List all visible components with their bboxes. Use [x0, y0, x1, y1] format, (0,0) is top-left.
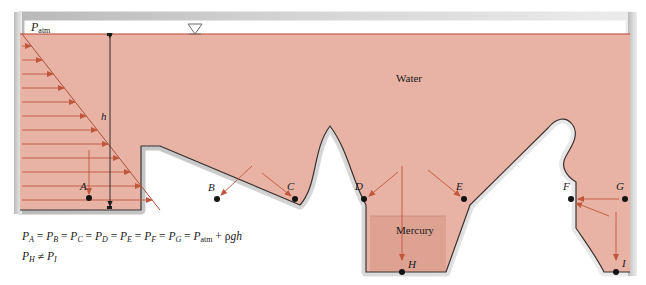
point-G	[622, 196, 628, 202]
fluid-diagram-svg	[0, 0, 646, 285]
water-body	[20, 34, 630, 272]
point-D	[361, 196, 367, 202]
figure-container: Patm h Water Mercury A B C D E F G H I P…	[0, 0, 646, 285]
point-F	[568, 196, 574, 202]
point-markers	[86, 195, 628, 275]
point-C	[292, 196, 298, 202]
point-A	[86, 195, 92, 201]
point-E	[461, 196, 467, 202]
point-H	[399, 269, 405, 275]
mercury-body	[370, 216, 446, 272]
point-I	[613, 269, 619, 275]
free-surface-triangle	[188, 24, 202, 34]
point-B	[214, 196, 220, 202]
